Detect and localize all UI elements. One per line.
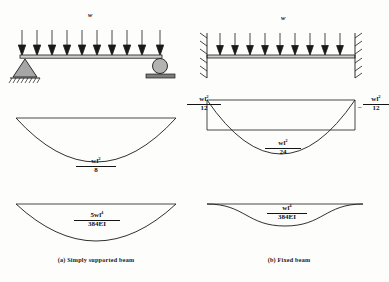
load-label-w: w bbox=[281, 14, 285, 21]
pin-support bbox=[9, 59, 40, 83]
caption-simply-supported: (a) Simply supported beam bbox=[0, 256, 192, 263]
fixed-support-right bbox=[355, 33, 362, 78]
deflection-svg-fixed bbox=[193, 192, 385, 254]
roller-support bbox=[146, 59, 175, 79]
bmd-value-left-support: wl2 12 bbox=[187, 96, 221, 112]
bmd-parabola-sagging bbox=[16, 118, 176, 162]
load-diagram-fixed: w bbox=[193, 0, 385, 96]
bmd-simply-supported: wl2 8 bbox=[0, 96, 192, 192]
beam-member bbox=[20, 55, 162, 58]
caption-fixed-beam: (b) Fixed beam bbox=[193, 256, 385, 263]
column-fixed-beam: w bbox=[193, 0, 385, 282]
bmd-value-midspan: wl2 8 bbox=[76, 158, 116, 174]
bmd-right-sign: – bbox=[358, 103, 362, 111]
deflection-value-midspan: 5wl4 384EI bbox=[74, 212, 120, 228]
load-svg-simply-supported bbox=[0, 0, 192, 96]
load-svg-fixed bbox=[193, 0, 385, 96]
bmd-value-midspan: wl2 24 bbox=[265, 140, 301, 156]
column-simply-supported: w bbox=[0, 0, 192, 282]
bmd-svg-simply-supported bbox=[0, 96, 192, 192]
beam-member bbox=[207, 55, 355, 58]
distributed-load-arrows bbox=[217, 33, 344, 55]
load-label-w: w bbox=[88, 11, 92, 18]
distributed-load-arrows bbox=[18, 30, 163, 56]
fixed-support-left bbox=[200, 33, 207, 78]
deflection-diagram-simply-supported: 5wl4 384EI bbox=[0, 192, 192, 254]
deflection-value-midspan: wl4 384EI bbox=[267, 205, 307, 221]
deflection-diagram-fixed: wl4 384EI bbox=[193, 192, 385, 254]
bmd-value-right-support: wl2 12 bbox=[363, 96, 389, 112]
bmd-fixed: wl2 12 – wl2 12 wl2 24 bbox=[193, 96, 385, 192]
load-diagram-simply-supported: w bbox=[0, 0, 192, 96]
